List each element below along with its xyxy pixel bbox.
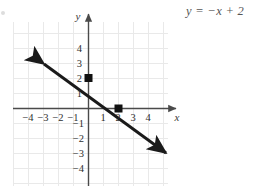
coordinate-plane: y x −4 −3 −2 −1 1 2 3 4 4 3 2 1 −1 −2 −3… — [0, 0, 263, 196]
y-tick-label: −4 — [73, 163, 85, 174]
y-tick-label: 2 — [77, 73, 82, 84]
page-artifact-mark — [1, 11, 5, 15]
y-tick-label: 3 — [77, 58, 82, 69]
y-tick-label: −3 — [73, 148, 84, 159]
x-tick-label: −2 — [52, 112, 63, 123]
point-y-intercept — [85, 74, 93, 82]
y-tick-label: −2 — [73, 133, 84, 144]
x-tick-labels: −4 −3 −2 −1 1 2 3 4 — [22, 112, 151, 123]
x-axis-label: x — [174, 111, 180, 123]
x-tick-label: −3 — [37, 112, 48, 123]
graph-figure: y = −x + 2 — [0, 0, 263, 196]
equation-label: y = −x + 2 — [186, 4, 244, 19]
x-tick-label: 4 — [145, 112, 151, 123]
x-tick-label: 2 — [115, 112, 120, 123]
y-tick-label: −1 — [73, 118, 84, 129]
x-tick-label: −4 — [22, 112, 34, 123]
y-axis-label: y — [75, 10, 81, 22]
x-tick-label: 1 — [100, 112, 105, 123]
y-tick-label: 1 — [77, 88, 82, 99]
x-tick-label: 3 — [130, 112, 135, 123]
y-tick-label: 4 — [77, 43, 83, 54]
